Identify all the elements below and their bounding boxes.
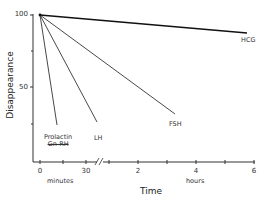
x-tick-30: 30 [76,168,96,175]
label-hcg: HCG [241,37,255,44]
y-tick-100: 100 [6,11,28,18]
x-tick-0: 0 [30,168,50,175]
minutes-label: minutes [47,178,73,185]
line-hcg [40,15,247,33]
label-prolactin-gnrh: Prolactin Gn-RH [44,134,72,149]
hours-label: hours [186,178,204,185]
x-axis-title: Time [140,186,162,196]
label-gnrh: Gn-RH [44,141,72,148]
x-tick-2: 2 [128,168,148,175]
label-fsh: FSH [169,121,182,128]
label-lh: LH [94,135,103,142]
line-fsh [40,15,175,114]
origin-point [39,14,42,17]
y-axis-title: Disappearance [5,50,15,120]
x-tick-4: 4 [186,168,206,175]
disappearance-chart: 100 50 Disappearance 0 30 2 4 6 minutes … [0,0,262,202]
x-tick-6: 6 [244,168,262,175]
